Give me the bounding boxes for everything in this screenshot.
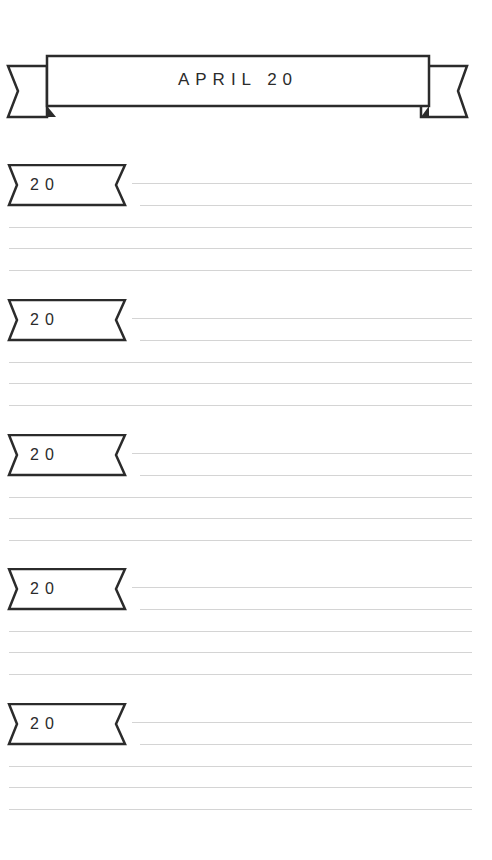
day-entry: 20 [0,703,492,818]
day-number: 20 [30,703,60,745]
writing-line[interactable] [9,787,472,788]
month-title: APRIL 20 [47,56,429,104]
day-entry: 20 [0,299,492,414]
writing-line[interactable] [140,475,472,476]
writing-line[interactable] [9,405,472,406]
writing-line[interactable] [9,227,472,228]
writing-line[interactable] [140,744,472,745]
day-tag-ribbon-icon [0,703,130,747]
day-number: 20 [30,299,60,341]
day-tag-ribbon-icon [0,164,130,208]
day-tag-ribbon-icon [0,568,130,612]
writing-line[interactable] [9,248,472,249]
writing-line[interactable] [9,497,472,498]
writing-line[interactable] [9,766,472,767]
writing-line[interactable] [140,609,472,610]
day-number: 20 [30,434,60,476]
writing-line[interactable] [132,318,472,319]
writing-line[interactable] [9,362,472,363]
writing-line[interactable] [9,674,472,675]
writing-line[interactable] [132,183,472,184]
writing-line[interactable] [132,453,472,454]
day-number: 20 [30,164,60,206]
writing-line[interactable] [132,587,472,588]
day-entry: 20 [0,568,492,683]
day-entry: 20 [0,164,492,279]
day-tag-ribbon-icon [0,299,130,343]
writing-line[interactable] [9,270,472,271]
writing-line[interactable] [132,722,472,723]
writing-line[interactable] [9,809,472,810]
writing-line[interactable] [140,340,472,341]
writing-line[interactable] [9,540,472,541]
month-banner: APRIL 20 [0,50,492,125]
day-number: 20 [30,568,60,610]
day-tag-ribbon-icon [0,434,130,478]
writing-line[interactable] [9,631,472,632]
day-entry: 20 [0,434,492,549]
writing-line[interactable] [9,383,472,384]
writing-line[interactable] [140,205,472,206]
writing-line[interactable] [9,652,472,653]
writing-line[interactable] [9,518,472,519]
